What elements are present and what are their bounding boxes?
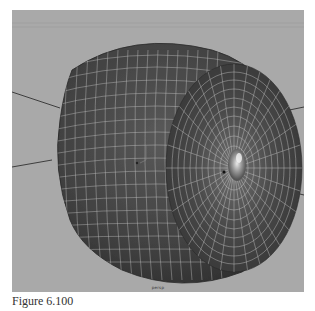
pivot-marker	[222, 170, 225, 173]
figure-caption: Figure 6.100	[12, 294, 73, 309]
tire-model-wireframe	[12, 10, 304, 292]
camera-name-label: persp	[12, 285, 304, 290]
maya-perspective-viewport[interactable]: persp	[12, 10, 304, 292]
viewport-grid-lines	[12, 23, 304, 27]
hub-highlight	[228, 149, 246, 181]
